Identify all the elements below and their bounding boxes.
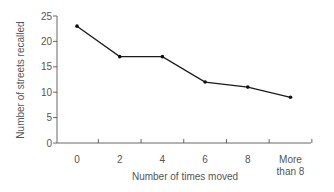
data-point: [161, 55, 165, 59]
series-group: [75, 24, 292, 99]
x-tick-label: 8: [245, 154, 251, 165]
y-tick-label: 10: [41, 87, 53, 98]
series-line: [77, 26, 291, 97]
data-point: [246, 85, 250, 89]
data-point: [75, 24, 79, 28]
y-tick-label: 15: [41, 61, 53, 72]
line-chart: 0510152025 02468Morethan 8 Number of tim…: [0, 0, 334, 192]
y-axis-title: Number of streets recalled: [15, 21, 26, 138]
y-axis: 0510152025: [41, 11, 57, 149]
y-tick-label: 0: [46, 138, 52, 149]
x-tick-label: 6: [202, 154, 208, 165]
x-tick-label: Morethan 8: [277, 154, 305, 177]
y-tick-label: 25: [41, 11, 53, 22]
data-point: [118, 55, 122, 59]
y-tick-label: 20: [41, 36, 53, 47]
x-axis-title: Number of times moved: [132, 171, 238, 182]
x-tick-label: 0: [74, 154, 80, 165]
data-point: [203, 80, 207, 84]
x-tick-label: 2: [117, 154, 123, 165]
data-point: [289, 95, 293, 99]
y-tick-label: 5: [46, 112, 52, 123]
x-tick-label: 4: [160, 154, 166, 165]
